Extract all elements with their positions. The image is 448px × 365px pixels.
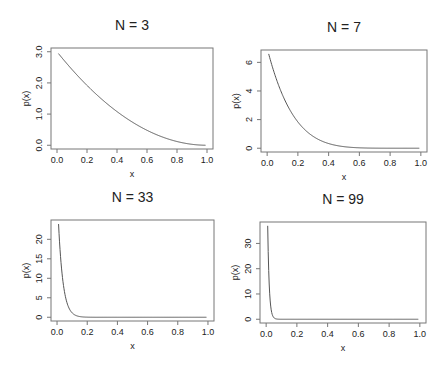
x-tick-label: 0.6 [353, 158, 366, 168]
x-tick-label: 0.2 [291, 329, 304, 339]
x-tick-label: 0.2 [81, 327, 94, 337]
panel-n99: N = 990.00.20.40.60.81.00102030xp(x) [230, 191, 426, 353]
y-tick-label: 5 [34, 295, 44, 300]
chart-title: N = 33 [112, 189, 154, 205]
y-tick-label: 0 [244, 146, 254, 151]
chart-title: N = 99 [322, 191, 364, 207]
y-tick-label: 30 [243, 238, 253, 248]
panel-n3: N = 30.00.20.40.60.81.00.01.02.03.0xp(x) [21, 17, 213, 179]
x-axis-label: x [341, 343, 346, 353]
x-tick-label: 0.6 [352, 329, 365, 339]
x-tick-label: 0.0 [51, 155, 64, 165]
plot-box [51, 48, 213, 149]
x-tick-label: 0.6 [141, 155, 154, 165]
y-axis-label: p(x) [231, 93, 241, 109]
plot-box [51, 220, 214, 321]
x-tick-label: 0.4 [111, 327, 124, 337]
x-tick-label: 0.0 [261, 158, 274, 168]
chart-title: N = 7 [327, 19, 361, 35]
x-tick-label: 0.6 [141, 327, 154, 337]
x-tick-label: 0.4 [111, 155, 124, 165]
y-tick-label: 1.0 [34, 108, 44, 121]
x-axis-label: x [130, 169, 135, 179]
y-tick-label: 3.0 [34, 45, 44, 58]
y-tick-label: 20 [34, 234, 44, 244]
x-tick-label: 0.8 [172, 327, 185, 337]
x-tick-label: 1.0 [414, 329, 427, 339]
plot-box [261, 50, 427, 152]
x-tick-label: 0.0 [51, 327, 64, 337]
y-tick-label: 4 [244, 88, 254, 93]
y-axis-label: p(x) [21, 263, 31, 279]
y-tick-label: 0 [34, 315, 44, 320]
y-axis-label: p(x) [21, 91, 31, 107]
x-tick-label: 1.0 [201, 155, 214, 165]
panel-n7: N = 70.00.20.40.60.81.00246xp(x) [231, 19, 427, 182]
x-axis-label: x [130, 341, 135, 351]
x-tick-label: 1.0 [415, 158, 428, 168]
density-curve [59, 54, 206, 146]
x-tick-label: 0.8 [384, 158, 397, 168]
panel-n33: N = 330.00.20.40.60.81.005101520xp(x) [21, 189, 214, 351]
x-tick-label: 0.4 [321, 329, 334, 339]
x-tick-label: 1.0 [202, 327, 215, 337]
y-tick-label: 10 [243, 289, 253, 299]
y-tick-label: 20 [243, 264, 253, 274]
chart-title: N = 3 [115, 17, 149, 33]
figure-canvas: N = 30.00.20.40.60.81.00.01.02.03.0xp(x)… [0, 0, 448, 365]
x-tick-label: 0.0 [260, 329, 273, 339]
x-tick-label: 0.8 [171, 155, 184, 165]
density-curve [269, 54, 420, 148]
density-curve [268, 226, 419, 319]
y-tick-label: 0.0 [34, 139, 44, 152]
y-tick-label: 0 [243, 317, 253, 322]
y-tick-label: 10 [34, 273, 44, 283]
y-tick-label: 2.0 [34, 77, 44, 90]
y-axis-label: p(x) [230, 265, 240, 281]
y-tick-label: 2 [244, 117, 254, 122]
x-tick-label: 0.2 [292, 158, 305, 168]
plot-box [260, 222, 426, 323]
x-tick-label: 0.8 [383, 329, 396, 339]
density-curve [59, 224, 207, 317]
y-tick-label: 6 [244, 60, 254, 65]
y-tick-label: 15 [34, 254, 44, 264]
x-axis-label: x [342, 172, 347, 182]
x-tick-label: 0.4 [322, 158, 335, 168]
x-tick-label: 0.2 [81, 155, 94, 165]
